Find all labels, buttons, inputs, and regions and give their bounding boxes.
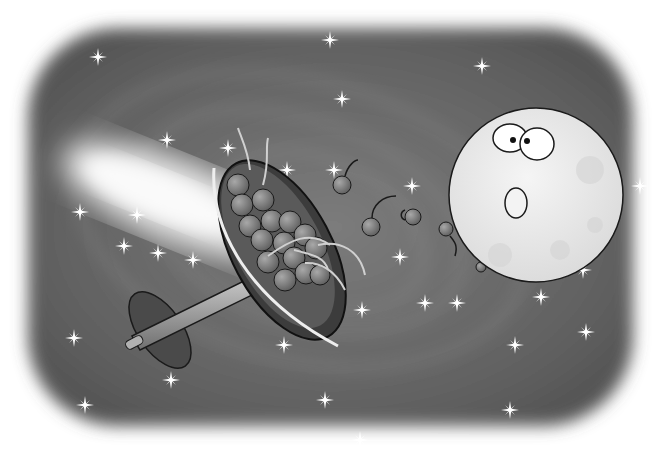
illustration [0,0,653,452]
right-eye [520,128,554,160]
mouth [505,188,527,218]
moon-face [449,108,623,282]
